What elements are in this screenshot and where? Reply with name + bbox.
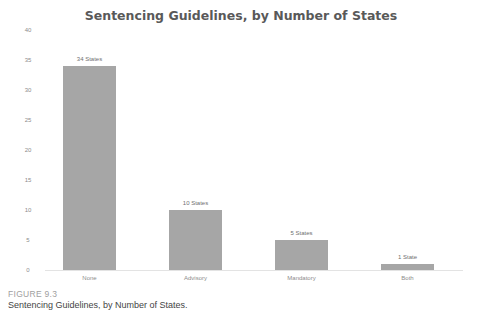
- y-tick-40: 40: [20, 27, 36, 33]
- y-tick-25: 25: [20, 117, 36, 123]
- y-tick-15: 15: [20, 177, 36, 183]
- bar-none: [63, 66, 116, 270]
- x-axis-line: [45, 270, 463, 271]
- bar-label-none: 34 States: [50, 56, 130, 62]
- y-tick-5: 5: [20, 237, 36, 243]
- bar-mandatory: [275, 240, 328, 270]
- bar-advisory: [169, 210, 222, 270]
- y-tick-20: 20: [20, 147, 36, 153]
- y-tick-10: 10: [20, 207, 36, 213]
- y-tick-0: 0: [20, 267, 36, 273]
- bar-label-mandatory: 5 States: [262, 230, 342, 236]
- bar-both: [381, 264, 434, 270]
- y-tick-30: 30: [20, 87, 36, 93]
- chart-title: Sentencing Guidelines, by Number of Stat…: [0, 8, 482, 23]
- x-label-advisory: Advisory: [156, 275, 236, 281]
- x-label-none: None: [50, 275, 130, 281]
- bar-label-advisory: 10 States: [156, 200, 236, 206]
- bar-label-both: 1 State: [368, 254, 448, 260]
- y-tick-35: 35: [20, 57, 36, 63]
- x-label-both: Both: [368, 275, 448, 281]
- figure-caption: Sentencing Guidelines, by Number of Stat…: [8, 300, 188, 310]
- x-label-mandatory: Mandatory: [262, 275, 342, 281]
- figure-number: FIGURE 9.3: [8, 289, 57, 299]
- chart-area: Sentencing Guidelines, by Number of Stat…: [0, 0, 482, 290]
